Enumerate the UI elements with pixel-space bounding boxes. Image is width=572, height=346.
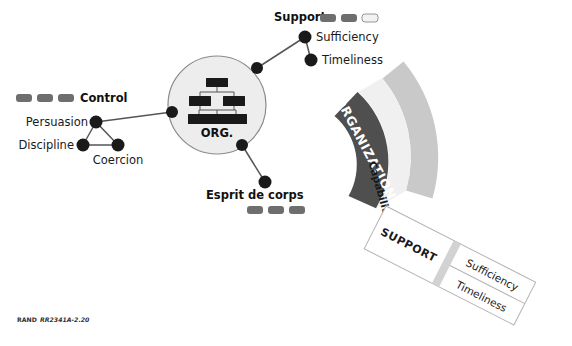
node-persuasion-dot [90,116,103,129]
node-label-timeliness: Timeliness [321,53,383,67]
node-org-anchor-left-dot [166,106,178,118]
group-control: Control [16,91,128,105]
group-support: Support [274,10,378,24]
node-timeliness-dot [305,54,318,67]
figure-credit-id: RR2341A-2.20 [40,316,90,323]
group-esprit-chip-3 [289,206,305,214]
figure-credit: RAND RR2341A-2.20 [17,316,90,323]
group-esprit-chip-2 [268,206,284,214]
group-esprit-chip-1 [247,206,263,214]
org-box-top [206,78,228,87]
node-coercion-dot [112,139,125,152]
group-esprit-label: Esprit de corps [206,188,304,202]
org-box-bottom-center [206,114,228,124]
organization-circle: ORG. [168,56,266,154]
node-org-anchor-top-dot [251,62,263,74]
org-box-bottom-right [225,114,247,124]
node-esprit-dot [259,176,272,189]
node-discipline-dot [77,139,90,152]
link-persuasion-org [96,112,172,122]
support-banner: SUPPORT Sufficiency Timeliness [364,206,535,325]
node-label-sufficiency: Sufficiency [316,30,379,44]
group-support-chip-3 [362,14,378,22]
link-org-sufficiency [257,37,305,68]
org-box-mid-left [189,96,211,106]
link-org-esprit [242,145,265,182]
node-sufficiency-dot [299,31,312,44]
org-box-mid-right [223,96,245,106]
organization-support-diagram: ORGANIZATION Capabilities SUPPORT Suffic… [0,0,572,346]
organization-circle-label: ORG. [201,126,233,140]
group-esprit-de-corps: Esprit de corps [206,188,305,214]
group-control-chip-2 [37,94,53,102]
group-support-label: Support [274,10,327,24]
figure-credit-prefix: RAND [17,316,37,323]
node-org-anchor-bottom-dot [236,139,248,151]
group-support-chip-1 [320,14,336,22]
arc-band-group: ORGANIZATION Capabilities [332,62,438,231]
group-support-chip-2 [341,14,357,22]
group-control-label: Control [80,91,128,105]
node-label-discipline: Discipline [18,138,74,152]
node-label-persuasion: Persuasion [26,115,88,129]
group-control-chip-1 [16,94,32,102]
node-label-coercion: Coercion [93,153,143,167]
group-control-chip-3 [58,94,74,102]
